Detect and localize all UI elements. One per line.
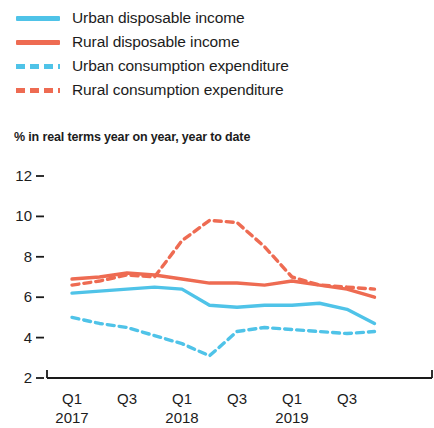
y-tick-12: 12 <box>2 168 32 183</box>
x-tick-year-2018: 2018 <box>157 410 207 425</box>
y-tick-8: 8 <box>2 249 32 264</box>
x-tick-quarter-2: Q1 <box>162 391 202 406</box>
x-tick-quarter-3: Q3 <box>217 391 257 406</box>
y-tick-2: 2 <box>2 370 32 385</box>
plot-svg <box>0 0 434 428</box>
y-tick-6: 6 <box>2 289 32 304</box>
x-tick-quarter-5: Q3 <box>327 391 367 406</box>
x-tick-year-2019: 2019 <box>267 410 317 425</box>
series-line-urban-disposable-income <box>72 287 375 323</box>
series-line-rural-consumption-expenditure <box>72 220 375 289</box>
x-tick-year-2017: 2017 <box>47 410 97 425</box>
data-series-layer <box>72 220 375 355</box>
y-tick-10: 10 <box>2 208 32 223</box>
x-tick-quarter-4: Q1 <box>272 391 312 406</box>
series-line-urban-consumption-expenditure <box>72 317 375 355</box>
chart-figure: Urban disposable income Rural disposable… <box>0 0 434 428</box>
x-tick-quarter-0: Q1 <box>52 391 92 406</box>
y-tick-4: 4 <box>2 330 32 345</box>
plot-area: 12108642 Q1Q3Q1Q3Q1Q3201720182019 <box>0 0 434 428</box>
x-tick-quarter-1: Q3 <box>107 391 147 406</box>
